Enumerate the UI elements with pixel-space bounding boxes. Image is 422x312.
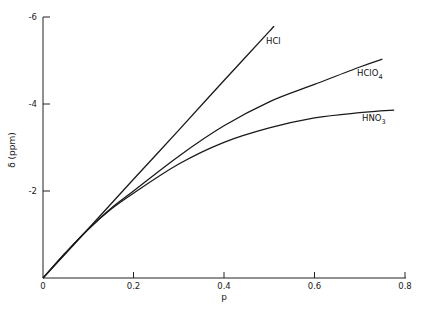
series-label-hno3: HNO3 (362, 113, 386, 126)
y-axis-title: δ (ppm) (7, 132, 17, 168)
y-tick-label: -4 (29, 99, 37, 109)
series-layer (43, 27, 394, 278)
series-label-hclo4: HClO4 (357, 68, 383, 81)
x-tick-label: 0.8 (398, 281, 412, 291)
y-tick-label: -6 (29, 12, 37, 22)
series-line-hno3 (43, 110, 394, 278)
series-labels: HClHClO4HNO3 (266, 36, 386, 126)
series-label-hcl: HCl (266, 36, 281, 46)
x-axis: 00.20.40.60.8 (40, 272, 411, 291)
x-tick-label: 0.2 (127, 281, 141, 291)
chart: -2-4-6 00.20.40.60.8 p δ (ppm) HClHClO4H… (0, 0, 422, 312)
y-axis: -2-4-6 (29, 12, 50, 278)
x-tick-label: 0.6 (308, 281, 322, 291)
x-tick-label: 0 (40, 281, 45, 291)
y-tick-label: -2 (29, 186, 37, 196)
x-axis-title: p (221, 292, 227, 302)
x-tick-label: 0.4 (217, 281, 231, 291)
